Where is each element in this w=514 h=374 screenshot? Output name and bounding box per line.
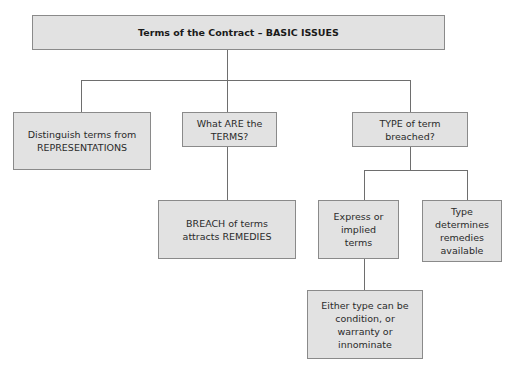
node-type-breached-text: TYPE of term breached? <box>379 117 440 143</box>
connector-to-distinguish <box>81 80 82 112</box>
node-either-type-text: Either type can be condition, or warrant… <box>321 299 408 351</box>
connector-level2-horizontal <box>364 170 468 171</box>
node-type-breached: TYPE of term breached? <box>352 112 468 147</box>
node-distinguish: Distinguish terms from REPRESENTATIONS <box>13 112 151 170</box>
node-express-implied: Express or implied terms <box>318 200 399 259</box>
node-distinguish-text: Distinguish terms from REPRESENTATIONS <box>28 128 137 154</box>
connector-type-breached-down <box>410 146 411 170</box>
node-type-determines: Type determines remedies available <box>422 200 502 262</box>
title-text: Terms of the Contract – BASIC ISSUES <box>138 26 339 39</box>
connector-to-type-breached <box>410 80 411 112</box>
connector-to-express <box>364 170 365 200</box>
node-type-determines-text: Type determines remedies available <box>435 205 489 257</box>
title-box: Terms of the Contract – BASIC ISSUES <box>32 15 445 50</box>
connector-title-down <box>227 49 228 80</box>
connector-what-are-to-breach <box>227 146 228 200</box>
connector-level1-horizontal <box>81 80 411 81</box>
node-either-type: Either type can be condition, or warrant… <box>307 290 423 359</box>
connector-express-to-either <box>364 258 365 290</box>
node-express-implied-text: Express or implied terms <box>334 210 384 249</box>
connector-to-what-are <box>227 80 228 112</box>
node-breach-text: BREACH of terms attracts REMEDIES <box>183 217 272 243</box>
node-what-are: What ARE the TERMS? <box>182 112 277 147</box>
connector-to-type-determines <box>467 170 468 200</box>
node-what-are-text: What ARE the TERMS? <box>197 117 263 143</box>
node-breach: BREACH of terms attracts REMEDIES <box>158 200 296 259</box>
